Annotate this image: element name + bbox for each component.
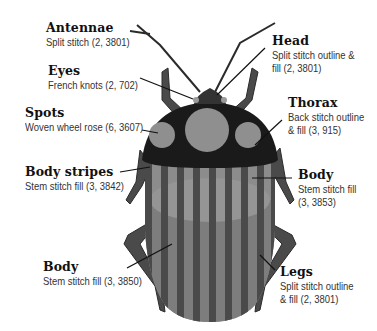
label-title: Spots xyxy=(25,106,162,121)
label-title: Body xyxy=(43,260,158,275)
label-desc: Stem stitch fill xyxy=(298,183,356,196)
spot-icon xyxy=(185,108,229,152)
label-title: Thorax xyxy=(288,96,377,111)
body-stripes-icon xyxy=(140,145,280,325)
label-title: Head xyxy=(272,34,368,49)
label-legs: Legs Split stitch outline & fill (2, 380… xyxy=(280,265,366,306)
label-title: Legs xyxy=(280,265,366,280)
label-body-lower: Body Stem stitch fill (3, 3850) xyxy=(43,260,158,288)
label-title: Eyes xyxy=(48,64,153,79)
label-spots: Spots Woven wheel rose (6, 3607) xyxy=(25,106,162,134)
eye-icon xyxy=(221,97,227,103)
label-desc: Split stitch outline xyxy=(280,280,354,293)
label-desc: Split stitch (2, 3801) xyxy=(46,36,130,49)
label-desc: (3, 3853) xyxy=(298,196,336,209)
beetle-embroidery-diagram: Antennae Split stitch (2, 3801) Eyes Fre… xyxy=(0,0,377,331)
label-body-upper: Body Stem stitch fill (3, 3853) xyxy=(298,168,366,209)
label-desc: & fill (2, 3801) xyxy=(280,293,338,306)
label-body-stripes: Body stripes Stem stitch fill (3, 3842) xyxy=(25,165,140,193)
label-desc: Stem stitch fill (3, 3850) xyxy=(43,275,142,288)
label-eyes: Eyes French knots (2, 702) xyxy=(48,64,153,92)
label-head: Head Split stitch outline & fill (2, 380… xyxy=(272,34,368,75)
label-desc: Back stitch outline xyxy=(288,111,364,124)
label-desc: French knots (2, 702) xyxy=(48,79,138,92)
label-desc: Woven wheel rose (6, 3607) xyxy=(25,121,143,134)
label-desc: fill (2, 3801) xyxy=(272,62,321,75)
label-desc: Split stitch outline & xyxy=(272,49,355,62)
label-antennae: Antennae Split stitch (2, 3801) xyxy=(46,21,143,49)
label-title: Body stripes xyxy=(25,165,140,180)
label-desc: Stem stitch fill (3, 3842) xyxy=(25,180,124,193)
label-desc: & fill (3, 915) xyxy=(288,124,341,137)
label-thorax: Thorax Back stitch outline & fill (3, 91… xyxy=(288,96,377,137)
eye-icon xyxy=(193,97,199,103)
label-title: Antennae xyxy=(46,21,143,36)
label-title: Body xyxy=(298,168,366,183)
spot-icon xyxy=(235,122,261,148)
